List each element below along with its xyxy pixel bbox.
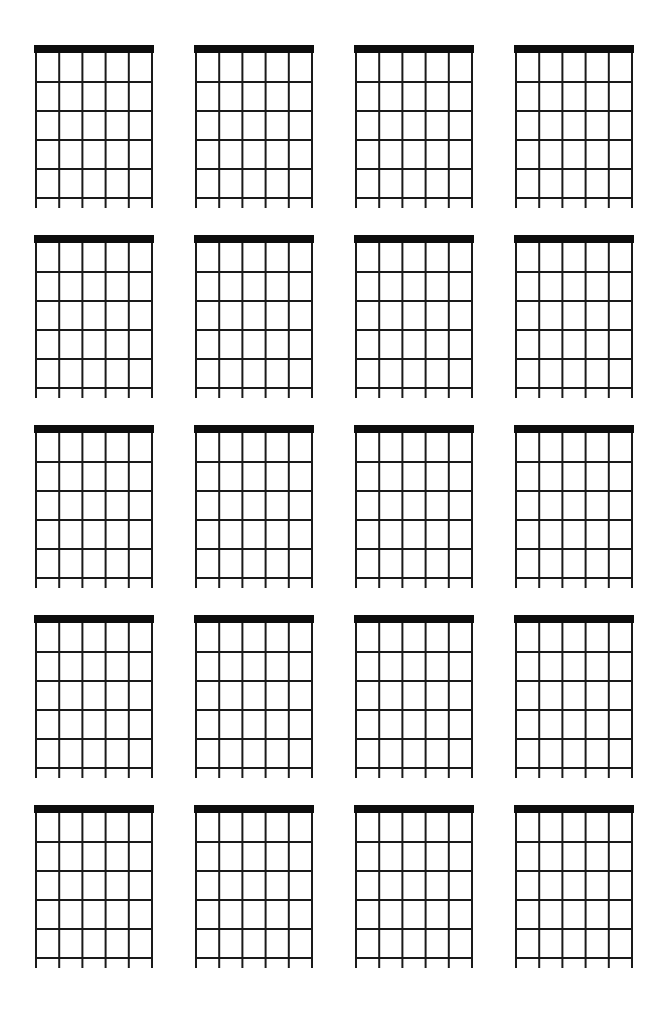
nut-bar	[194, 425, 314, 433]
chord-diagram[interactable]	[193, 44, 309, 204]
nut-bar	[34, 805, 154, 813]
nut-bar	[514, 425, 634, 433]
nut-bar	[514, 615, 634, 623]
nut-bar	[194, 45, 314, 53]
chord-chart-sheet	[0, 0, 668, 1015]
nut-bar	[34, 235, 154, 243]
chord-diagram[interactable]	[353, 614, 469, 774]
chord-diagram[interactable]	[193, 234, 309, 394]
nut-bar	[34, 615, 154, 623]
nut-bar	[354, 425, 474, 433]
chord-diagram[interactable]	[353, 804, 469, 964]
chord-diagram[interactable]	[33, 424, 149, 584]
chord-diagram[interactable]	[513, 234, 629, 394]
nut-bar	[354, 805, 474, 813]
chord-diagram[interactable]	[513, 44, 629, 204]
nut-bar	[194, 805, 314, 813]
chord-diagram[interactable]	[513, 614, 629, 774]
nut-bar	[354, 235, 474, 243]
chord-diagram[interactable]	[33, 804, 149, 964]
chord-diagram[interactable]	[33, 44, 149, 204]
chord-diagram[interactable]	[193, 614, 309, 774]
nut-bar	[34, 45, 154, 53]
chord-diagram[interactable]	[33, 614, 149, 774]
nut-bar	[514, 235, 634, 243]
nut-bar	[354, 45, 474, 53]
chord-diagram[interactable]	[353, 44, 469, 204]
nut-bar	[354, 615, 474, 623]
chord-diagram-grid	[0, 0, 668, 1015]
nut-bar	[194, 615, 314, 623]
nut-bar	[194, 235, 314, 243]
chord-diagram[interactable]	[353, 234, 469, 394]
chord-diagram[interactable]	[193, 804, 309, 964]
chord-diagram[interactable]	[513, 804, 629, 964]
nut-bar	[514, 45, 634, 53]
chord-diagram[interactable]	[193, 424, 309, 584]
nut-bar	[34, 425, 154, 433]
nut-bar	[514, 805, 634, 813]
chord-diagram[interactable]	[33, 234, 149, 394]
chord-diagram[interactable]	[513, 424, 629, 584]
chord-diagram[interactable]	[353, 424, 469, 584]
